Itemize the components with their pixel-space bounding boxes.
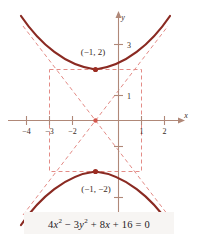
x-tick-label--3: −3 [45,127,54,136]
upper-branch-curve [21,16,170,70]
x-tick-label-1: 1 [140,127,144,136]
vertex-upper-point [93,67,98,72]
equation-caption: 4x2 − 3y2 + 8x + 16 = 0 [48,217,150,230]
upper-vertex-label: (−1, 2) [81,47,106,57]
graph-canvas: x y −4 −3 −2 1 2 3 1 (−1, 2) (−1, −2) [0,0,197,238]
x-axis-label: x [183,111,188,120]
x-tick-label--2: −2 [68,127,77,136]
lower-vertex-label: (−1, −2) [81,184,111,194]
x-tick-label-2: 2 [163,127,167,136]
y-tick-label-1: 1 [127,92,131,101]
vertex-lower-point [93,169,98,174]
hyperbola-figure: x y −4 −3 −2 1 2 3 1 (−1, 2) (−1, −2) [0,0,197,238]
equation-caption-box: 4x2 − 3y2 + 8x + 16 = 0 [24,212,174,234]
x-tick-label--4: −4 [22,127,31,136]
y-tick-label-3: 3 [127,41,131,50]
y-axis-label: y [120,13,125,22]
center-point [93,118,97,122]
